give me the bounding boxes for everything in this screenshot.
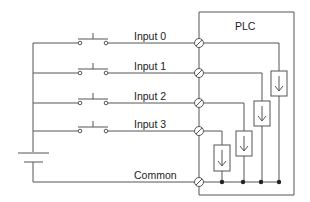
battery-icon <box>18 153 49 162</box>
pushbutton-switch-icon <box>78 33 108 45</box>
input-row-3: Input 3 <box>33 118 194 133</box>
terminal-screw-icon <box>195 39 204 48</box>
terminal-screw-icon <box>195 127 204 136</box>
input-sense-element-1 <box>254 101 270 126</box>
terminal-screw-icon <box>195 178 204 187</box>
terminal-screw-icon <box>195 99 204 108</box>
input-row-2: Input 2 <box>33 90 194 105</box>
input-sense-element-3 <box>214 145 230 171</box>
input-sense-element-2 <box>236 131 252 156</box>
input-label: Input 3 <box>134 118 166 130</box>
input-row-0: Input 0 <box>33 30 194 45</box>
input-label: Input 2 <box>134 90 166 102</box>
input-label: Input 0 <box>134 30 166 42</box>
common-label: Common <box>134 169 177 181</box>
pushbutton-switch-icon <box>78 63 108 75</box>
pushbutton-switch-icon <box>78 121 108 133</box>
plc-title: PLC <box>235 20 256 32</box>
pushbutton-switch-icon <box>78 93 108 105</box>
terminal-screw-icon <box>195 69 204 78</box>
plc-wiring-diagram: PLC Input 0 Input 1 <box>0 0 310 202</box>
input-label: Input 1 <box>134 60 166 72</box>
power-rail <box>18 43 194 182</box>
input-sense-element-0 <box>271 71 287 96</box>
input-row-1: Input 1 <box>33 60 194 75</box>
